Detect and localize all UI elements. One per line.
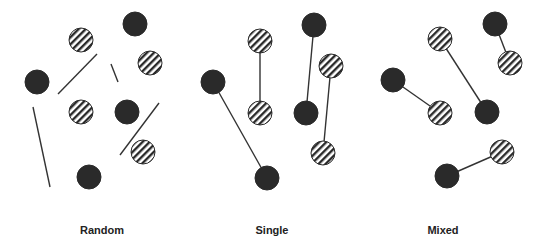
dark-circle	[483, 12, 507, 36]
hatched-circle	[319, 54, 343, 78]
hatched-circle	[248, 101, 272, 125]
dark-circle	[302, 13, 326, 37]
connector-line	[440, 39, 487, 112]
connector-line	[33, 107, 50, 187]
hatched-circle	[248, 29, 272, 53]
hatched-circle	[498, 51, 522, 75]
dark-circle	[435, 164, 459, 188]
panel-label-mixed: Mixed	[393, 224, 493, 236]
dark-circle	[475, 100, 499, 124]
hatched-circle	[490, 140, 514, 164]
connector-line	[111, 64, 118, 82]
circles	[25, 12, 522, 190]
dark-circle	[201, 70, 225, 94]
hatched-circle	[69, 28, 93, 52]
hatched-circle	[428, 27, 452, 51]
diagram-canvas	[0, 0, 540, 242]
dark-circle	[255, 166, 279, 190]
dark-circle	[77, 165, 101, 189]
hatched-circle	[69, 100, 93, 124]
hatched-circle	[138, 51, 162, 75]
connector-line	[58, 54, 97, 94]
dark-circle	[381, 68, 405, 92]
hatched-circle	[131, 140, 155, 164]
dark-circle	[294, 101, 318, 125]
hatched-circle	[311, 141, 335, 165]
connector-line	[213, 82, 267, 178]
dark-circle	[123, 12, 147, 36]
panel-label-random: Random	[52, 224, 152, 236]
dark-circle	[25, 70, 49, 94]
panel-label-single: Single	[222, 224, 322, 236]
connector-line	[323, 66, 331, 153]
dark-circle	[115, 100, 139, 124]
hatched-circle	[428, 101, 452, 125]
connector-line	[306, 25, 314, 113]
